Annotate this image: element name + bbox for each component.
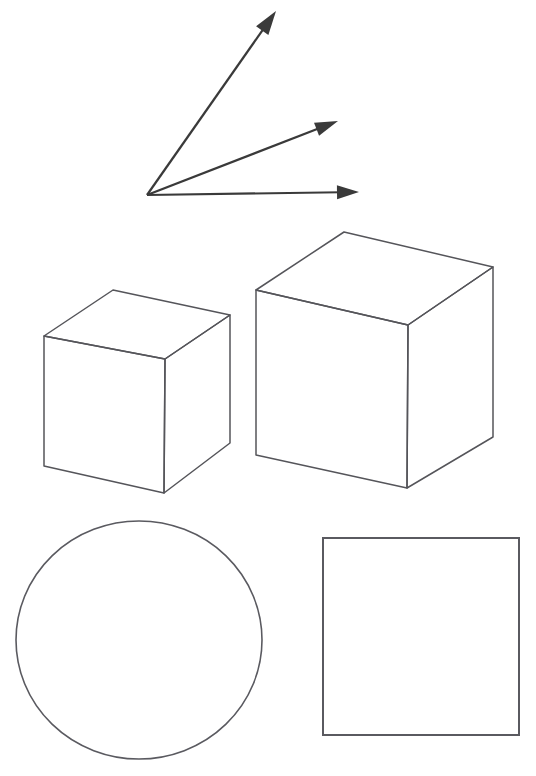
figure-canvas: [0, 0, 536, 776]
canvas-background: [0, 0, 536, 776]
